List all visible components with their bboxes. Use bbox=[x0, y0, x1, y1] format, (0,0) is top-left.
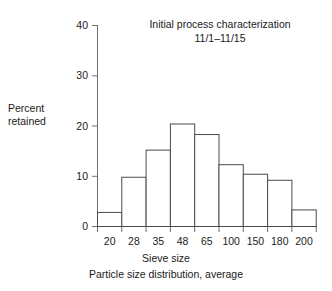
bar bbox=[195, 135, 219, 227]
bar bbox=[292, 210, 316, 227]
bar bbox=[170, 124, 194, 227]
chart-figure: Initial process characterization 11/1–11… bbox=[0, 0, 332, 291]
x-axis-label-line1: Sieve size bbox=[0, 252, 332, 264]
chart-canvas bbox=[0, 0, 332, 291]
bar-series bbox=[98, 124, 317, 227]
bar bbox=[219, 165, 243, 227]
bar bbox=[146, 150, 170, 226]
bar bbox=[122, 177, 146, 226]
bar bbox=[243, 174, 267, 226]
y-tick-label: 10 bbox=[60, 170, 88, 182]
x-axis-label-line2: Particle size distribution, average bbox=[0, 268, 332, 280]
x-tick-label: 200 bbox=[289, 235, 319, 247]
y-tick-label: 30 bbox=[60, 69, 88, 81]
y-tick-label: 20 bbox=[60, 120, 88, 132]
bar bbox=[268, 180, 292, 226]
bar bbox=[98, 212, 122, 226]
y-tick-label: 40 bbox=[60, 19, 88, 31]
y-tick-label: 0 bbox=[60, 220, 88, 232]
